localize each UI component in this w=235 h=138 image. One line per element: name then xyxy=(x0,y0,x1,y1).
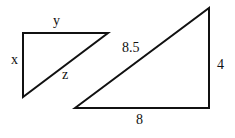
label-x: x xyxy=(11,53,18,67)
label-4: 4 xyxy=(217,58,224,72)
triangles-drawing xyxy=(0,0,235,138)
label-y: y xyxy=(53,14,60,28)
large-triangle xyxy=(75,8,209,108)
label-z: z xyxy=(62,68,68,82)
small-triangle xyxy=(23,33,108,97)
label-8-5: 8.5 xyxy=(122,41,140,55)
label-8: 8 xyxy=(136,113,143,127)
